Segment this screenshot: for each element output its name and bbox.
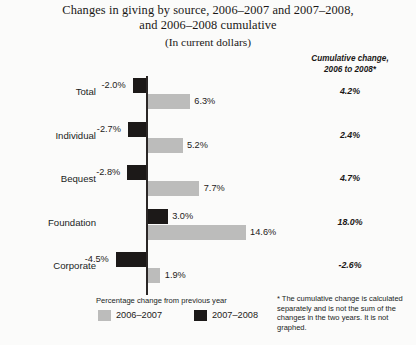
legend-items: 2006–20072007–2008 — [96, 310, 286, 323]
chart-title-block: Changes in giving by source, 2006–2007 a… — [0, 3, 416, 50]
cumulative-value: 2.4% — [296, 130, 404, 141]
bar-row: Corporate-4.5%1.9%-2.6% — [0, 246, 416, 290]
bar-value-2007-2008: -2.0% — [102, 80, 126, 91]
chart-subtitle: (In current dollars) — [0, 35, 416, 50]
bar-2007-2008 — [133, 78, 146, 93]
legend-swatch-gray — [98, 310, 111, 321]
cumulative-header-line-1: Cumulative change, — [296, 54, 404, 65]
row-label-total: Total — [0, 86, 96, 97]
cumulative-value: 18.0% — [296, 217, 404, 228]
legend-title: Percentage change from previous year — [96, 296, 286, 306]
bar-row: Bequest-2.8%7.7%4.7% — [0, 159, 416, 203]
bar-2006-2007 — [148, 268, 161, 283]
legend-label: 2007–2008 — [212, 310, 258, 321]
bar-2006-2007 — [148, 94, 190, 109]
bar-2006-2007 — [148, 181, 200, 196]
bar-value-2007-2008: -2.7% — [97, 124, 121, 135]
bar-row: Individual-2.7%5.2%2.4% — [0, 116, 416, 160]
plot-area: Total-2.0%6.3%4.2%Individual-2.7%5.2%2.4… — [0, 72, 416, 296]
legend-label: 2006–2007 — [116, 310, 162, 321]
cumulative-value: -2.6% — [296, 260, 404, 271]
legend-swatch-black — [194, 310, 207, 321]
chart-title-line-1: Changes in giving by source, 2006–2007 a… — [0, 3, 416, 18]
bar-value-2006-2007: 5.2% — [187, 140, 208, 151]
bar-row: Total-2.0%6.3%4.2% — [0, 72, 416, 116]
cumulative-value: 4.2% — [296, 86, 404, 97]
bar-value-2006-2007: 14.6% — [250, 227, 276, 238]
bar-2007-2008 — [127, 165, 146, 180]
bar-value-2007-2008: -4.5% — [85, 254, 109, 265]
chart-title-line-2: and 2006–2008 cumulative — [0, 18, 416, 33]
legend-item-2007–2008: 2007–2008 — [194, 310, 258, 321]
bar-2007-2008 — [148, 209, 168, 224]
bar-value-2006-2007: 1.9% — [165, 270, 186, 281]
bar-value-2006-2007: 6.3% — [194, 96, 215, 107]
bar-2007-2008 — [116, 252, 146, 267]
bar-2006-2007 — [148, 138, 183, 153]
bar-2007-2008 — [128, 122, 146, 137]
cumulative-value: 4.7% — [296, 173, 404, 184]
legend-item-2006–2007: 2006–2007 — [98, 310, 162, 321]
chart-footnote: * The cumulative change is calculated se… — [277, 294, 413, 332]
bar-value-2006-2007: 7.7% — [204, 183, 225, 194]
row-label-foundation: Foundation — [0, 217, 96, 228]
row-label-bequest: Bequest — [0, 173, 96, 184]
bar-value-2007-2008: -2.8% — [96, 167, 120, 178]
bar-value-2007-2008: 3.0% — [172, 211, 193, 222]
row-label-corporate: Corporate — [0, 260, 96, 271]
bar-row: Foundation3.0%14.6%18.0% — [0, 203, 416, 247]
row-label-individual: Individual — [0, 130, 96, 141]
bar-2006-2007 — [148, 225, 246, 240]
chart-legend: Percentage change from previous year 200… — [96, 296, 286, 323]
chart-figure: Changes in giving by source, 2006–2007 a… — [0, 0, 416, 345]
